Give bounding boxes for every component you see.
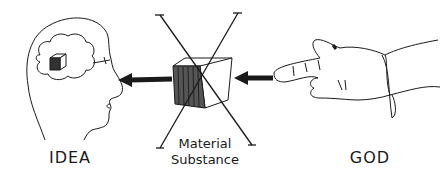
idea-label: IDEA <box>30 148 110 167</box>
material-cube-icon <box>173 58 232 108</box>
material-label-line1: Material <box>150 136 260 152</box>
material-label-line2: Substance <box>150 152 260 168</box>
material-substance-label: Material Substance <box>150 136 260 168</box>
pointing-hand <box>274 40 440 118</box>
arrow-left-icon <box>118 73 172 87</box>
small-cube-icon <box>50 54 66 70</box>
head-profile <box>27 18 123 140</box>
god-label: GOD <box>330 148 410 167</box>
arrow-right-icon <box>234 71 273 85</box>
